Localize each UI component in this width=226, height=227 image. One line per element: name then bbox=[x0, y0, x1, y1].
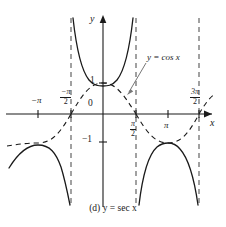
x-tick-3pi-over-2-numerator: 3π bbox=[190, 88, 200, 96]
cosine-annotation-label: y = cos x bbox=[147, 52, 180, 62]
annotation-leader-line bbox=[129, 63, 146, 92]
x-tick-pi-over-2-numerator: π bbox=[130, 120, 136, 128]
x-tick-label-pi: π bbox=[164, 121, 169, 130]
x-tick-neg-pi-over-2-denominator: 2 bbox=[60, 98, 71, 106]
origin-label: 0 bbox=[88, 99, 93, 109]
x-tick-neg-pi-over-2-numerator: −π bbox=[60, 88, 71, 96]
plot-area bbox=[0, 0, 226, 227]
x-tick-label-pi-over-2: π 2 bbox=[130, 120, 136, 138]
annotation-leader-arrowhead bbox=[127, 89, 133, 95]
cosine-segment-left bbox=[7, 114, 71, 146]
secant-branch-right bbox=[139, 143, 198, 205]
x-axis-label: x bbox=[210, 118, 214, 128]
x-tick-label-neg-pi: −π bbox=[31, 96, 42, 105]
y-axis-arrowhead bbox=[100, 15, 107, 23]
cosine-segment-far-right bbox=[199, 94, 215, 114]
figure-caption: (d) y = sec x bbox=[0, 203, 226, 213]
secant-branch-left bbox=[9, 145, 70, 205]
figure-sec-x: y x 1 0 −1 −π −π 2 π 2 π 3π 2 y = cos x … bbox=[0, 0, 226, 227]
x-tick-label-3pi-over-2: 3π 2 bbox=[190, 88, 200, 106]
x-tick-3pi-over-2-denominator: 2 bbox=[190, 98, 200, 106]
y-tick-label-neg-one: −1 bbox=[82, 135, 92, 145]
y-tick-label-one: 1 bbox=[90, 76, 95, 86]
axis-group bbox=[6, 15, 212, 207]
x-tick-label-neg-pi-over-2: −π 2 bbox=[60, 88, 71, 106]
x-tick-pi-over-2-denominator: 2 bbox=[130, 130, 136, 138]
y-axis-label: y bbox=[90, 14, 94, 24]
